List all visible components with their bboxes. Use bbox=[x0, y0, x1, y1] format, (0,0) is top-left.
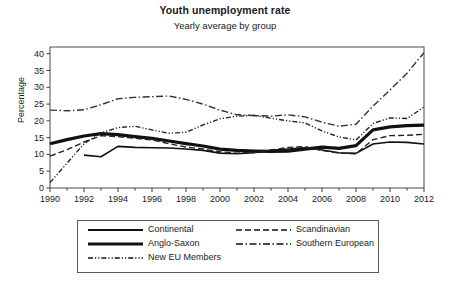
chart-figure: Youth unemployment rate Yearly average b… bbox=[0, 0, 450, 284]
legend-swatch bbox=[88, 254, 143, 262]
chart-legend: ContinentalAnglo-SaxonNew EU MembersScan… bbox=[77, 220, 379, 273]
series-line bbox=[50, 53, 424, 127]
legend-swatch bbox=[88, 240, 143, 248]
legend-swatch bbox=[236, 240, 291, 248]
legend-label: Scandinavian bbox=[296, 224, 350, 234]
series-line bbox=[50, 107, 424, 183]
legend-swatch bbox=[236, 226, 291, 234]
plot-frame bbox=[50, 47, 424, 188]
legend-label: Anglo-Saxon bbox=[148, 238, 200, 248]
legend-label: Southern European bbox=[296, 238, 374, 248]
legend-label: New EU Members bbox=[148, 252, 221, 262]
series-line bbox=[84, 142, 424, 157]
legend-label: Continental bbox=[148, 224, 194, 234]
legend-swatch bbox=[88, 226, 143, 234]
